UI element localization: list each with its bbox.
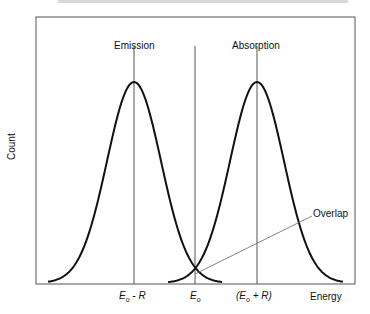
tick-e0-plus-r: (Eo + R) bbox=[236, 290, 272, 303]
tick-text: (E bbox=[236, 290, 246, 301]
tick-sub: o bbox=[197, 296, 201, 303]
emission-label: Emission bbox=[114, 40, 155, 51]
tick-text: + R) bbox=[250, 290, 272, 301]
overlap-label: Overlap bbox=[313, 208, 348, 219]
y-axis-label: Count bbox=[6, 133, 17, 160]
absorption-curve bbox=[168, 82, 343, 282]
diagram-canvas bbox=[0, 0, 370, 314]
x-axis-label: Energy bbox=[310, 291, 342, 302]
emission-curve bbox=[48, 82, 222, 282]
absorption-label: Absorption bbox=[232, 40, 280, 51]
tick-text: E bbox=[190, 290, 197, 301]
overlap-pointer bbox=[195, 216, 312, 274]
tick-e0: Eo bbox=[190, 290, 201, 303]
tick-text: - R bbox=[130, 290, 146, 301]
tick-e0-minus-r: Eo - R bbox=[119, 290, 146, 303]
tick-text: E bbox=[119, 290, 126, 301]
